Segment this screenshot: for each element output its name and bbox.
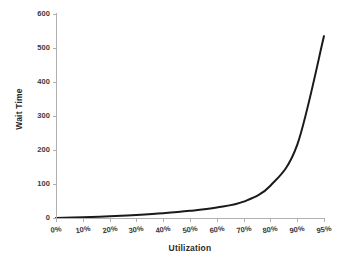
- x-axis-tick-mark: [163, 219, 164, 222]
- x-axis-tick-mark: [297, 219, 298, 222]
- x-axis-ticks: 0%10%20%30%40%50%60%70%80%90%95%: [0, 0, 340, 263]
- x-axis-tick-label: 40%: [149, 223, 178, 236]
- x-axis-tick-mark: [324, 219, 325, 222]
- x-axis-title: Utilization: [56, 243, 324, 253]
- x-axis-tick-label: 80%: [256, 223, 285, 236]
- x-axis-tick-mark: [83, 219, 84, 222]
- x-axis-tick-mark: [270, 219, 271, 222]
- x-axis-tick-mark: [190, 219, 191, 222]
- x-axis-tick-mark: [217, 219, 218, 222]
- x-axis-tick-label: 60%: [202, 223, 231, 236]
- x-axis-tick-mark: [244, 219, 245, 222]
- x-axis-tick-label: 95%: [309, 223, 338, 236]
- wait-time-vs-utilization-chart: 0100200300400500600 0%10%20%30%40%50%60%…: [0, 0, 340, 263]
- x-axis-tick-label: 70%: [229, 223, 258, 236]
- x-axis-tick-label: 20%: [95, 223, 124, 236]
- y-axis-title: Wait Time: [14, 69, 24, 149]
- x-axis-tick-label: 90%: [283, 223, 312, 236]
- x-axis-tick-mark: [136, 219, 137, 222]
- x-axis-tick-mark: [110, 219, 111, 222]
- x-axis-tick-label: 30%: [122, 223, 151, 236]
- x-axis-tick-label: 0%: [41, 223, 70, 236]
- x-axis-tick-label: 10%: [68, 223, 97, 236]
- x-axis-tick-label: 50%: [175, 223, 204, 236]
- x-axis-tick-mark: [56, 219, 57, 222]
